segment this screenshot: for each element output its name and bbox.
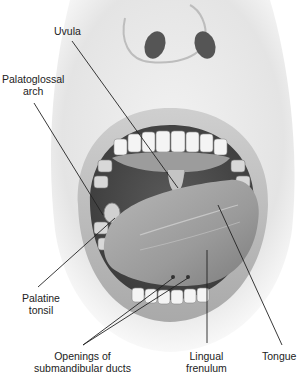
label-palatine-tonsil: Palatine tonsil bbox=[22, 292, 60, 316]
oral-cavity-diagram: Uvula Palatoglossal arch Palatine tonsil… bbox=[0, 0, 305, 376]
label-lingual-frenulum: Lingual frenulum bbox=[186, 350, 227, 374]
label-palatoglossal-arch: Palatoglossal arch bbox=[2, 73, 64, 97]
illustration bbox=[0, 0, 305, 376]
label-tongue: Tongue bbox=[262, 350, 296, 362]
label-uvula: Uvula bbox=[54, 25, 81, 37]
label-openings-submandibular-ducts: Openings of submandibular ducts bbox=[34, 350, 131, 374]
